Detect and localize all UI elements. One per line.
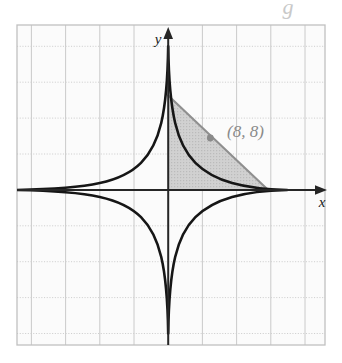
tangent-point-dot	[207, 135, 214, 142]
x-axis-label: x	[318, 194, 326, 210]
y-axis-label: y	[153, 31, 162, 47]
astroid-graph-svg: g	[0, 0, 342, 363]
figure-container: g	[0, 0, 342, 363]
page-artifact-glyph: g	[283, 0, 294, 19]
tangent-point-label: (8, 8)	[227, 122, 264, 141]
